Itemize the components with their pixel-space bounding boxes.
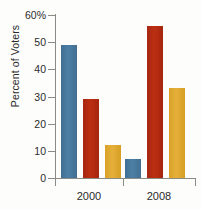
x-group-separator (195, 178, 196, 186)
y-tick-label: 10 (0, 145, 46, 157)
bar-2000-series-1 (61, 45, 77, 178)
y-tick-label: 50 (0, 36, 46, 48)
y-tick-label: 20 (0, 118, 46, 130)
y-tick-mark (48, 97, 55, 98)
bar-chart: Percent of Voters 60%50403020100 2000200… (0, 0, 201, 210)
x-tick-label-2008: 2008 (129, 190, 189, 202)
x-axis-line (55, 178, 196, 179)
bar-2008-series-2 (147, 26, 163, 178)
x-group-separator (55, 178, 56, 186)
y-tick-label: 60% (0, 9, 46, 21)
bar-2000-series-2 (83, 99, 99, 178)
x-group-separator (123, 178, 124, 186)
y-tick-label: 30 (0, 91, 46, 103)
x-tick-label-2000: 2000 (59, 190, 119, 202)
y-tick-label: 0 (0, 172, 46, 184)
y-tick-mark (48, 69, 55, 70)
y-tick-label: 40 (0, 63, 46, 75)
bar-2008-series-3 (169, 88, 185, 178)
bar-2000-series-3 (105, 145, 121, 178)
y-tick-mark (48, 178, 55, 179)
y-tick-mark (48, 151, 55, 152)
y-tick-mark (48, 124, 55, 125)
bar-2008-series-1 (125, 159, 141, 178)
bars-layer (55, 15, 196, 178)
y-tick-mark (48, 15, 55, 16)
y-tick-mark (48, 42, 55, 43)
